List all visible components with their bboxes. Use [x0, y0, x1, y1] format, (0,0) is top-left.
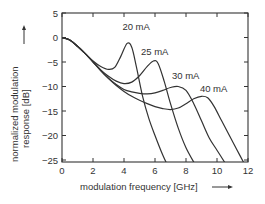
x-tick-label: 0 [59, 165, 64, 176]
x-tick-label: 6 [152, 165, 157, 176]
series-label: 25 mA [141, 46, 169, 57]
x-axis-ticks: 024681012 [59, 13, 253, 176]
y-tick-label: 0 [53, 32, 58, 43]
y-tick-label: −10 [42, 81, 58, 92]
y-tick-label: −15 [42, 106, 58, 117]
y-tick-label: 5 [53, 8, 58, 19]
series-labels: 20 mA25 mA30 mA40 mA [122, 21, 228, 95]
series-label: 20 mA [122, 21, 150, 32]
x-tick-label: 10 [212, 165, 223, 176]
x-tick-label: 8 [183, 165, 188, 176]
y-axis-label-line2: response [dB] [20, 89, 31, 148]
series-line-25-mA [62, 38, 195, 165]
x-axis-arrow-icon [212, 185, 233, 189]
x-tick-label: 12 [243, 165, 254, 176]
chart: 024681012 50−5−10−15−20−25 20 mA25 mA30 … [0, 0, 265, 204]
y-tick-label: −5 [47, 57, 58, 68]
y-tick-label: −20 [42, 130, 58, 141]
x-axis-label: modulation frequency [GHz] [80, 181, 198, 192]
series-label: 40 mA [200, 83, 228, 94]
y-axis-label-line1: normalized modulation [9, 66, 20, 162]
series-label: 30 mA [172, 70, 200, 81]
x-tick-label: 4 [121, 165, 126, 176]
y-axis-arrow-icon [22, 25, 26, 44]
y-tick-label: −25 [42, 155, 58, 166]
x-tick-label: 2 [90, 165, 95, 176]
